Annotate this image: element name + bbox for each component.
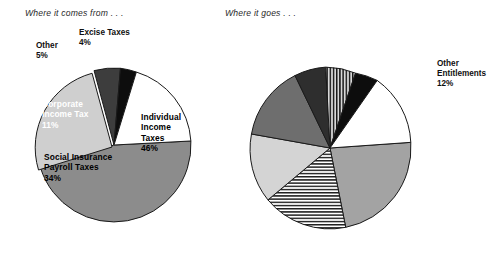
budget-pie-figure: Where it comes from . . . Other 5% Excis… — [0, 0, 495, 259]
panel-where-it-comes-from: Where it comes from . . . Other 5% Excis… — [0, 0, 225, 259]
label-medicare: Medicare 12% — [471, 136, 495, 157]
label-excise-taxes: Excise Taxes 4% — [79, 28, 130, 48]
label-other: Other 5% — [36, 41, 58, 61]
label-corporate-income-tax: Corporate Income Tax 11% — [42, 99, 88, 130]
label-other-entitlements: Other Entitlements 12% — [437, 59, 486, 90]
label-net-interest: Net Interest 14% — [473, 168, 495, 199]
pie-chart-spending — [215, 0, 495, 259]
panel-where-it-goes: Where it goes . . . — [215, 0, 495, 259]
label-individual-income-taxes: Individual Income Taxes 46% — [141, 112, 181, 154]
label-social-insurance-payroll-taxes: Social Insurance Payroll Taxes 34% — [44, 152, 112, 183]
